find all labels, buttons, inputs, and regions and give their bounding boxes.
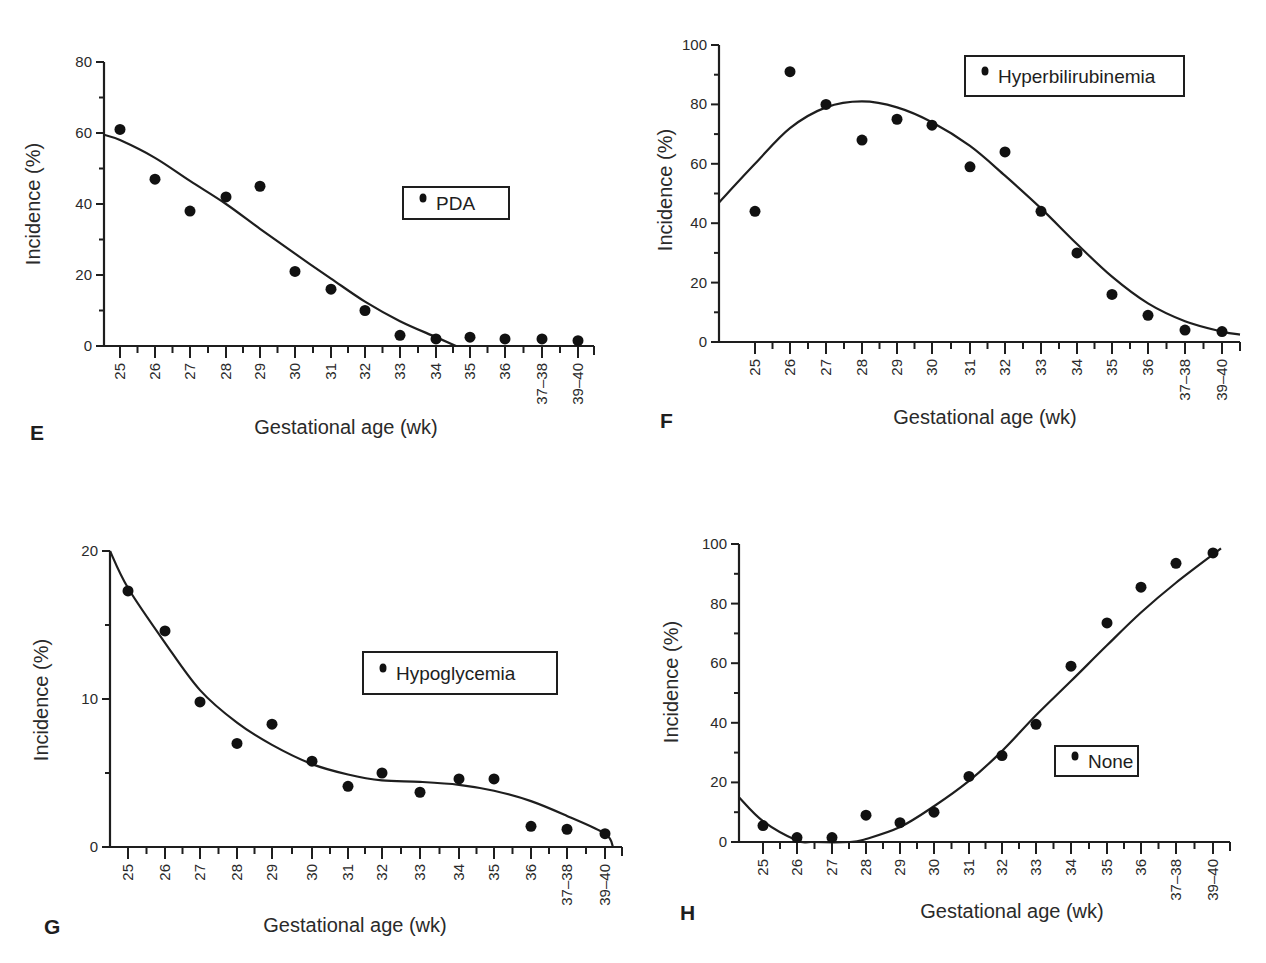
data-point xyxy=(267,719,278,730)
panel-label: H xyxy=(680,901,695,924)
axis-lines xyxy=(104,62,594,346)
x-tick-label: 28 xyxy=(228,864,245,881)
x-tick-label: 31 xyxy=(322,363,339,380)
data-point xyxy=(785,66,796,77)
data-point xyxy=(255,181,266,192)
x-tick-label: 32 xyxy=(993,859,1010,876)
data-point xyxy=(526,821,537,832)
x-tick-label: 31 xyxy=(961,359,978,376)
data-point xyxy=(1036,206,1047,217)
y-tick-label: 100 xyxy=(682,36,707,53)
x-tick-label: 37–38 xyxy=(1176,359,1193,401)
y-axis-label: Incidence (%) xyxy=(22,143,44,265)
y-tick-label: 60 xyxy=(75,124,92,141)
data-point xyxy=(1208,547,1219,558)
data-point xyxy=(1000,146,1011,157)
data-point xyxy=(861,810,872,821)
data-point xyxy=(1031,719,1042,730)
fit-curve xyxy=(739,548,1221,842)
x-tick-label: 31 xyxy=(960,859,977,876)
x-axis-label: Gestational age (wk) xyxy=(893,406,1076,428)
y-tick-label: 40 xyxy=(75,195,92,212)
data-point xyxy=(431,333,442,344)
x-axis-label: Gestational age (wk) xyxy=(920,900,1103,922)
y-axis-label: Incidence (%) xyxy=(660,621,682,743)
x-tick-label: 33 xyxy=(1027,859,1044,876)
panel-label: E xyxy=(30,421,44,444)
data-point xyxy=(1107,289,1118,300)
data-point xyxy=(750,206,761,217)
data-point xyxy=(573,335,584,346)
x-axis-label: Gestational age (wk) xyxy=(263,914,446,936)
y-tick-label: 60 xyxy=(690,155,707,172)
x-tick-label: 32 xyxy=(996,359,1013,376)
data-point xyxy=(965,161,976,172)
fit-curve xyxy=(104,135,456,346)
x-tick-label: 37–38 xyxy=(558,864,575,906)
y-tick-label: 20 xyxy=(81,542,98,559)
x-tick-label: 26 xyxy=(146,363,163,380)
x-tick-label: 35 xyxy=(1103,359,1120,376)
data-point xyxy=(1143,310,1154,321)
x-tick-label: 30 xyxy=(286,363,303,380)
data-point xyxy=(415,787,426,798)
y-axis-label: Incidence (%) xyxy=(30,639,52,761)
x-axis-label: Gestational age (wk) xyxy=(254,416,437,438)
y-axis-label: Incidence (%) xyxy=(654,129,676,251)
x-tick-label: 28 xyxy=(853,359,870,376)
data-point xyxy=(1217,326,1228,337)
data-point xyxy=(1180,325,1191,336)
data-point xyxy=(465,332,476,343)
x-tick-label: 28 xyxy=(857,859,874,876)
x-tick-label: 39–40 xyxy=(569,363,586,405)
data-point xyxy=(221,191,232,202)
legend-marker-icon xyxy=(1072,752,1079,761)
data-point xyxy=(115,124,126,135)
x-tick-label: 36 xyxy=(496,363,513,380)
y-tick-label: 0 xyxy=(84,337,92,354)
legend-label: PDA xyxy=(436,193,475,214)
legend-label: None xyxy=(1088,751,1133,772)
x-tick-label: 34 xyxy=(450,864,467,881)
data-point xyxy=(326,284,337,295)
x-tick-label: 29 xyxy=(251,363,268,380)
x-tick-label: 26 xyxy=(156,864,173,881)
data-point xyxy=(927,120,938,131)
data-point xyxy=(1171,558,1182,569)
legend-label: Hyperbilirubinemia xyxy=(998,66,1156,87)
data-point xyxy=(395,330,406,341)
data-point xyxy=(377,768,388,779)
x-tick-label: 35 xyxy=(485,864,502,881)
legend-label: Hypoglycemia xyxy=(396,663,516,684)
x-tick-label: 31 xyxy=(339,864,356,881)
data-point xyxy=(562,824,573,835)
chart-panel-g: 0102025262728293031323334353637–3839–40H… xyxy=(30,542,622,938)
y-tick-label: 80 xyxy=(710,595,727,612)
data-point xyxy=(160,625,171,636)
x-tick-label: 36 xyxy=(1139,359,1156,376)
data-point xyxy=(821,99,832,110)
fit-curve xyxy=(110,551,613,847)
data-point xyxy=(150,174,161,185)
x-tick-label: 36 xyxy=(1132,859,1149,876)
x-tick-label: 27 xyxy=(191,864,208,881)
x-tick-label: 33 xyxy=(391,363,408,380)
x-tick-label: 30 xyxy=(923,359,940,376)
x-tick-label: 34 xyxy=(427,363,444,380)
data-point xyxy=(454,773,465,784)
x-tick-label: 26 xyxy=(781,359,798,376)
x-tick-label: 32 xyxy=(356,363,373,380)
legend: PDA xyxy=(403,187,509,219)
data-point xyxy=(343,781,354,792)
y-tick-label: 10 xyxy=(81,690,98,707)
data-point xyxy=(1136,582,1147,593)
fit-curve xyxy=(719,101,1240,334)
x-tick-label: 39–40 xyxy=(1204,859,1221,901)
data-point xyxy=(290,266,301,277)
data-point xyxy=(892,114,903,125)
x-tick-label: 25 xyxy=(754,859,771,876)
data-point xyxy=(827,832,838,843)
data-point xyxy=(929,807,940,818)
y-tick-label: 40 xyxy=(710,714,727,731)
panel-label: F xyxy=(660,409,673,432)
